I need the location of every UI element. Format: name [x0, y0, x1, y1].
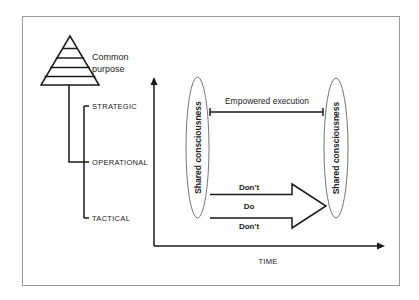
right-ellipse-label: Shared consciousness: [331, 101, 341, 194]
level-strategic: STRATEGIC: [92, 102, 137, 111]
left-ellipse-label: Shared consciousness: [193, 101, 203, 194]
pyramid-icon: [41, 36, 99, 85]
x-axis-arrowhead-icon: [377, 243, 385, 250]
x-axis-label: TIME: [258, 257, 277, 266]
y-axis-arrowhead-icon: [151, 77, 158, 85]
diagram-canvas: Common purpose STRATEGIC OPERATIONAL TAC…: [0, 0, 419, 300]
arrow-label-middle: Do: [244, 202, 255, 211]
level-tactical: TACTICAL: [92, 214, 130, 223]
empowered-execution-span: [210, 108, 323, 116]
empowered-execution-label: Empowered execution: [225, 96, 309, 106]
pyramid-label-line2: purpose: [92, 64, 125, 74]
level-operational: OPERATIONAL: [92, 158, 148, 167]
pyramid-label-line1: Common: [92, 52, 129, 62]
do-arrow-icon: [210, 184, 326, 228]
arrow-label-bottom: Don't: [239, 222, 259, 231]
hierarchy-connector: [69, 85, 89, 218]
arrow-label-top: Don't: [239, 183, 259, 192]
outer-frame: [23, 17, 400, 286]
